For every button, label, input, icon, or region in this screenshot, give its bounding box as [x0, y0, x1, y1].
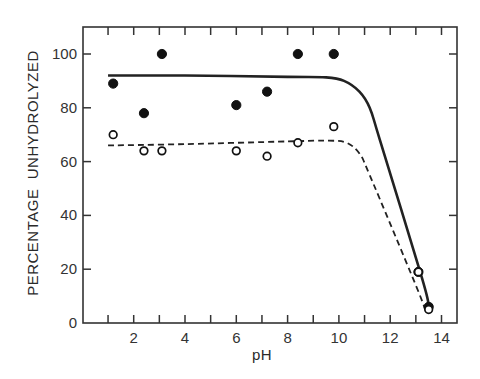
data-points — [109, 49, 434, 313]
y-tick-label: 100 — [52, 45, 77, 62]
x-tick-label: 6 — [232, 329, 240, 346]
open-data-point — [233, 147, 241, 155]
open-data-point — [330, 123, 338, 131]
y-axis-label: PERCENTAGE UNHYDROLYZED — [24, 50, 41, 296]
chart: 2468101214 020406080100 pH PERCENTAGE UN… — [0, 0, 480, 379]
y-tick-label: 60 — [60, 153, 77, 170]
x-tick-label: 10 — [331, 329, 348, 346]
y-tick-label: 0 — [69, 314, 77, 331]
x-tick-label: 8 — [283, 329, 291, 346]
solid-fit-curve — [108, 75, 429, 304]
open-data-point — [415, 268, 423, 276]
filled-data-point — [329, 49, 338, 58]
open-data-point — [140, 147, 148, 155]
y-tick-label: 80 — [60, 99, 77, 116]
filled-data-point — [232, 101, 241, 110]
filled-data-point — [157, 49, 166, 58]
open-data-point — [425, 306, 433, 314]
plot-border — [83, 27, 457, 323]
y-tick-label: 20 — [60, 260, 77, 277]
open-data-point — [263, 152, 271, 160]
x-tick-label: 12 — [382, 329, 399, 346]
x-tick-label: 2 — [130, 329, 138, 346]
filled-data-point — [262, 87, 271, 96]
x-tick-label: 4 — [181, 329, 189, 346]
x-tick-label: 14 — [433, 329, 450, 346]
x-axis-label: pH — [252, 346, 272, 363]
open-data-point — [109, 131, 117, 139]
fit-curves — [108, 75, 429, 312]
open-data-point — [158, 147, 166, 155]
plot-frame — [83, 27, 457, 323]
filled-data-point — [139, 109, 148, 118]
open-data-point — [294, 139, 302, 147]
dashed-fit-curve — [108, 141, 426, 313]
filled-data-point — [293, 49, 302, 58]
filled-data-point — [109, 79, 118, 88]
y-tick-label: 40 — [60, 206, 77, 223]
